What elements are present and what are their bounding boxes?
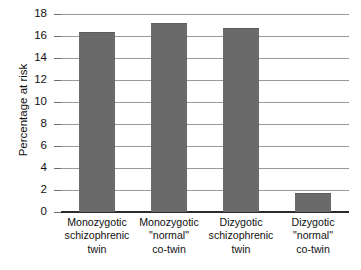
y-axis-tick bbox=[54, 36, 61, 37]
y-axis-tick-label: 2 bbox=[21, 184, 47, 196]
y-axis-tick-label: 0 bbox=[21, 206, 47, 218]
y-axis-tick-label: 14 bbox=[21, 52, 47, 64]
y-axis-tick bbox=[54, 102, 61, 103]
y-axis-tick bbox=[54, 146, 61, 147]
y-axis-tick-label: 10 bbox=[21, 96, 47, 108]
bar bbox=[79, 32, 115, 212]
x-axis-category-line: co-twin bbox=[277, 243, 349, 256]
y-axis-tick bbox=[54, 58, 61, 59]
y-axis-tick bbox=[54, 80, 61, 81]
y-axis-tick bbox=[54, 14, 61, 15]
bar bbox=[295, 193, 331, 212]
bar bbox=[151, 23, 187, 212]
x-axis-category-label: Monozygoticschizophrenictwin bbox=[61, 216, 133, 256]
x-axis-category-line: co-twin bbox=[133, 243, 205, 256]
y-axis-tick bbox=[54, 190, 61, 191]
x-axis-category-line: Monozygotic bbox=[133, 216, 205, 229]
x-axis-category-label: Dizygoticschizophrenictwin bbox=[205, 216, 277, 256]
x-axis-category-line: Monozygotic bbox=[61, 216, 133, 229]
x-axis-category-line: Dizygotic bbox=[205, 216, 277, 229]
y-axis-tick-label: 6 bbox=[21, 140, 47, 152]
x-axis-category-line: "normal" bbox=[277, 229, 349, 242]
y-axis-tick-label: 16 bbox=[21, 30, 47, 42]
x-axis-category-label: Dizygotic"normal"co-twin bbox=[277, 216, 349, 256]
x-axis-category-line: "normal" bbox=[133, 229, 205, 242]
y-axis-tick bbox=[54, 168, 61, 169]
x-axis-category-line: twin bbox=[205, 243, 277, 256]
x-axis-category-line: schizophrenic bbox=[61, 229, 133, 242]
y-axis-tick-label: 4 bbox=[21, 162, 47, 174]
y-axis-tick-label: 18 bbox=[21, 8, 47, 20]
y-axis-tick-label: 8 bbox=[21, 118, 47, 130]
bar bbox=[223, 28, 259, 212]
y-axis-tick bbox=[54, 124, 61, 125]
y-axis-tick bbox=[54, 212, 61, 213]
x-axis-labels: MonozygoticschizophrenictwinMonozygotic"… bbox=[61, 216, 349, 266]
x-axis-category-line: Dizygotic bbox=[277, 216, 349, 229]
y-axis-tick-label: 12 bbox=[21, 74, 47, 86]
x-axis-category-label: Monozygotic"normal"co-twin bbox=[133, 216, 205, 256]
gridline bbox=[61, 14, 349, 15]
x-axis-category-line: twin bbox=[61, 243, 133, 256]
plot-area: 024681012141618 bbox=[61, 14, 349, 212]
x-axis-category-line: schizophrenic bbox=[205, 229, 277, 242]
